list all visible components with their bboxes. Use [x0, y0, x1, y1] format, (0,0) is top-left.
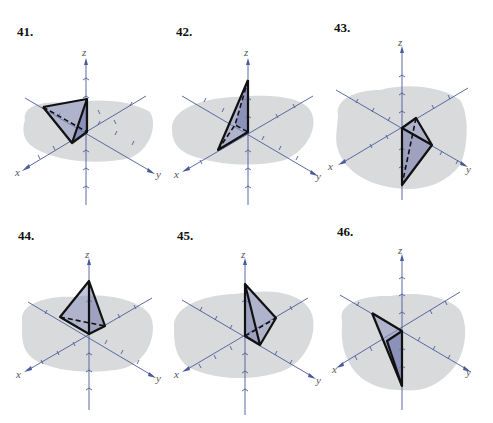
x-axis-label: x	[15, 368, 21, 380]
x-axis-label: x	[173, 368, 179, 380]
figure-44: 44. z x y	[0, 210, 164, 421]
x-axis-label: x	[327, 160, 333, 172]
x-axis-label: x	[14, 166, 20, 178]
figure-42: 42. z x y	[160, 0, 324, 211]
tetrahedron-plot: z x y	[320, 210, 493, 423]
z-axis-label: z	[397, 244, 403, 256]
tetrahedron-plot: z x y	[160, 0, 330, 211]
z-axis-label: z	[81, 46, 87, 58]
x-axis-label: x	[173, 168, 179, 180]
z-axis-label: z	[397, 36, 403, 48]
x-axis-label: x	[331, 363, 337, 375]
figure-46: 46. z x y	[320, 210, 484, 421]
figure-41: 41. z x y	[0, 0, 164, 211]
z-axis-label: z	[243, 46, 249, 58]
y-axis-label: y	[465, 163, 471, 175]
z-axis-label: z	[240, 248, 246, 260]
z-axis-label: z	[84, 248, 90, 260]
tetrahedron-plot: z x y	[160, 210, 330, 423]
y-axis-label: y	[465, 366, 471, 378]
tetrahedron-plot: z x y	[0, 210, 164, 423]
figure-43: 43. z x y	[320, 0, 484, 211]
tetrahedron-plot: z x y	[0, 0, 164, 211]
figure-45: 45. z x y	[160, 210, 324, 421]
tetrahedron-plot: z x y	[320, 0, 493, 211]
